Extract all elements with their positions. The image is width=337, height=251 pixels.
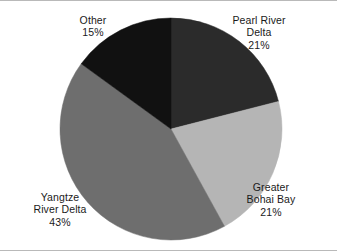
slice-label-other-line1: Other <box>54 14 132 26</box>
slice-label-pearl-river-delta-line2: Delta <box>216 26 302 38</box>
slice-label-other-value: 15% <box>54 26 132 38</box>
slice-label-pearl-river-delta-value: 21% <box>216 39 302 51</box>
slice-label-yangtze-river-delta: Yangtze River Delta 43% <box>12 191 108 228</box>
slice-label-other: Other 15% <box>54 14 132 39</box>
slice-label-yangtze-river-delta-value: 43% <box>12 216 108 228</box>
slice-label-pearl-river-delta: Pearl River Delta 21% <box>216 14 302 51</box>
slice-label-yangtze-river-delta-line1: Yangtze <box>12 191 108 203</box>
pie-chart-figure: Other 15% Pearl River Delta 21% Greater … <box>0 0 337 251</box>
slice-label-greater-bohai-bay: Greater Bohai Bay 21% <box>228 181 314 218</box>
slice-label-greater-bohai-bay-line2: Bohai Bay <box>228 193 314 205</box>
slice-label-pearl-river-delta-line1: Pearl River <box>216 14 302 26</box>
slice-label-yangtze-river-delta-line2: River Delta <box>12 203 108 215</box>
slice-label-greater-bohai-bay-line1: Greater <box>228 181 314 193</box>
slice-label-greater-bohai-bay-value: 21% <box>228 206 314 218</box>
